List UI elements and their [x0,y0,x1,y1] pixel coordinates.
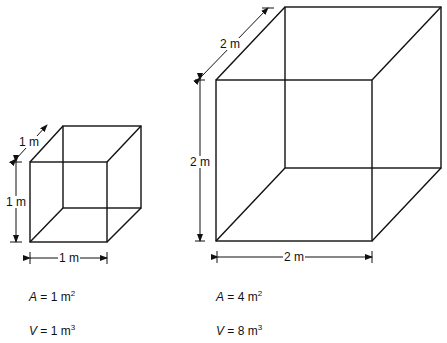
large-width-label: 2 m [283,251,305,263]
area-variable: A [29,290,37,304]
small-area-formula: A = 1 m2 [29,290,75,304]
small-cube [30,126,141,242]
volume-variable: V [216,324,224,338]
area-variable: A [216,290,224,304]
area-value: = 4 m [224,290,258,304]
large-volume-formula: V = 8 m3 [216,324,262,338]
small-width-label: 1 m [58,252,80,264]
volume-value: = 1 m [37,324,71,338]
large-cube [216,7,441,241]
area-value: = 1 m [37,290,71,304]
volume-variable: V [29,324,37,338]
large-height-label: 2 m [189,156,211,168]
large-area-formula: A = 4 m2 [216,290,262,304]
volume-exponent: 3 [71,323,75,332]
large-depth-label: 2 m [219,38,241,50]
small-volume-formula: V = 1 m3 [29,324,75,338]
volume-exponent: 3 [258,323,262,332]
area-exponent: 2 [71,289,75,298]
small-height-label: 1 m [5,196,27,208]
small-depth-label: 1 m [18,136,40,148]
area-exponent: 2 [258,289,262,298]
volume-value: = 8 m [224,324,258,338]
